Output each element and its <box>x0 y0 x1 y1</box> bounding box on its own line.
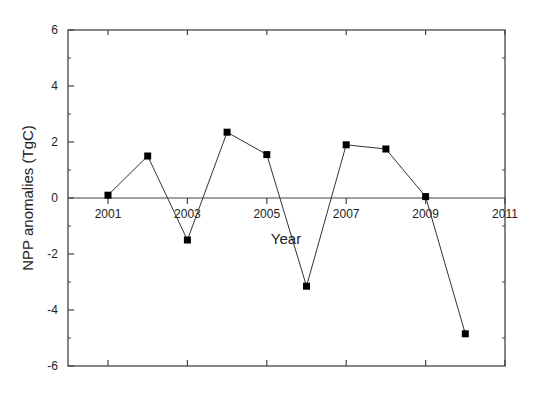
x-tick-label: 2007 <box>333 207 360 221</box>
x-tick-label: 2001 <box>95 207 122 221</box>
y-tick-label: 0 <box>51 191 58 205</box>
y-tick-label: -6 <box>47 359 58 373</box>
y-tick-label: -2 <box>47 247 58 261</box>
square-marker <box>343 141 350 148</box>
y-tick-label: 2 <box>51 135 58 149</box>
square-marker <box>184 237 191 244</box>
square-marker <box>224 129 231 136</box>
x-tick-label: 2009 <box>412 207 439 221</box>
square-marker <box>105 192 112 199</box>
square-marker <box>303 283 310 290</box>
y-axis-title: NPP anomalies (TgC) <box>19 125 36 271</box>
x-axis-title: Year <box>271 230 301 247</box>
y-tick-label: 6 <box>51 23 58 37</box>
x-tick-label: 2011 <box>492 207 518 221</box>
npp-anomaly-line-chart: -6-4-20246 200120032005200720092011 Year… <box>0 0 538 394</box>
x-tick-label: 2005 <box>253 207 280 221</box>
square-marker <box>422 193 429 200</box>
square-marker <box>263 151 270 158</box>
square-marker <box>144 153 151 160</box>
y-tick-label: -4 <box>47 303 58 317</box>
square-marker <box>382 146 389 153</box>
y-tick-label: 4 <box>51 79 58 93</box>
square-marker <box>462 330 469 337</box>
